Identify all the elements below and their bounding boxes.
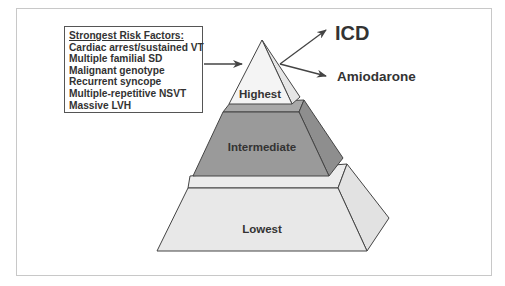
treatment-amiodarone: Amiodarone	[337, 69, 416, 84]
tier-label-intermediate: Intermediate	[228, 141, 296, 153]
pyramid-tier-lowest	[157, 164, 389, 251]
amiodarone-arrow	[280, 64, 326, 76]
tier-label-highest: Highest	[239, 88, 281, 100]
treatment-icd: ICD	[335, 22, 369, 45]
tier-label-lowest: Lowest	[242, 223, 282, 235]
pyramid-tier-intermediate	[193, 100, 343, 176]
pyramid-diagram: Highest Intermediate Lowest	[0, 0, 505, 286]
icd-arrow	[280, 30, 326, 64]
